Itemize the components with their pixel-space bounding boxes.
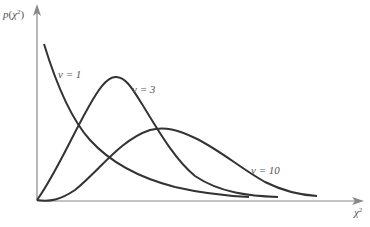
label-v10: v = 10 — [251, 164, 280, 176]
curve-v1 — [44, 44, 249, 197]
x-axis-label: χ2 — [353, 206, 363, 218]
chi-square-chart: p(χ2) χ2 v = 1 v = 3 v = 10 — [0, 0, 370, 227]
label-v3: v = 3 — [132, 83, 156, 95]
y-axis-label: p(χ2) — [2, 8, 25, 21]
label-v1: v = 1 — [58, 68, 81, 80]
